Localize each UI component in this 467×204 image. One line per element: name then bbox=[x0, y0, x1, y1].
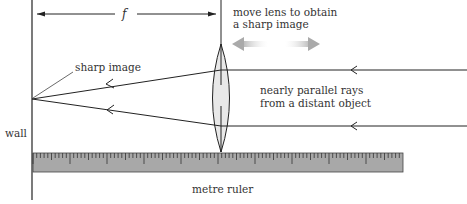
sharp-image-label: sharp image bbox=[75, 61, 141, 73]
move-lens-arrow bbox=[232, 37, 320, 51]
rays-label-2: from a distant object bbox=[260, 97, 372, 109]
focal-length-dimension bbox=[37, 12, 216, 17]
ruler-label: metre ruler bbox=[192, 183, 254, 195]
move-lens-label-1: move lens to obtain bbox=[233, 6, 338, 18]
rays-label-1: nearly parallel rays bbox=[260, 84, 363, 96]
wall-label: wall bbox=[5, 127, 28, 139]
metre-ruler bbox=[33, 153, 403, 172]
lower-ray bbox=[32, 99, 467, 130]
move-lens-label-2: a sharp image bbox=[233, 18, 309, 30]
lens-diagram: f move lens to obtain a sharp image shar… bbox=[0, 0, 467, 204]
focal-length-label: f bbox=[121, 7, 129, 21]
